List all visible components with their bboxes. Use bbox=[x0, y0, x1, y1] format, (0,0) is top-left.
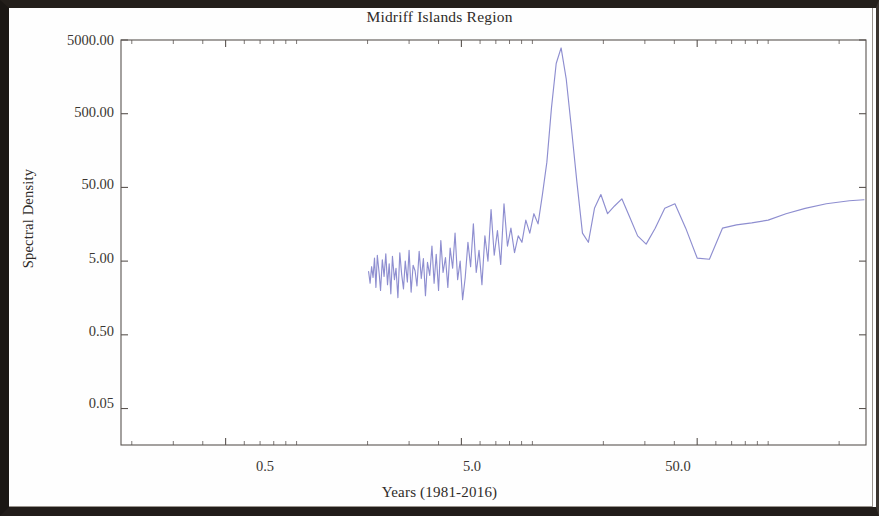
ytick-label-0p5: 0.50 bbox=[14, 323, 114, 340]
figure-scan: Midriff Islands Region 5000.00 500.00 50… bbox=[0, 0, 879, 516]
plot-area bbox=[0, 0, 879, 516]
ytick-label-500: 500.00 bbox=[14, 104, 114, 121]
y-axis-label: Spectral Density bbox=[20, 149, 37, 289]
xtick-label-5: 5.0 bbox=[432, 458, 512, 475]
ytick-label-5000: 5000.00 bbox=[14, 32, 114, 49]
ytick-label-0p05: 0.05 bbox=[14, 395, 114, 412]
xtick-label-50: 50.0 bbox=[638, 458, 718, 475]
x-axis-label: Years (1981-2016) bbox=[0, 484, 879, 501]
chart-title: Midriff Islands Region bbox=[0, 8, 879, 26]
xtick-label-0p5: 0.5 bbox=[225, 458, 305, 475]
